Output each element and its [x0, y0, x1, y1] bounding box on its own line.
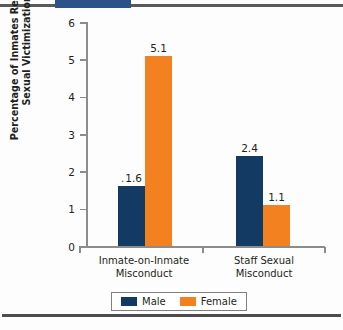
bar-female-inmate-on-inmate[interactable]: 5.1 [145, 56, 172, 246]
y-axis-title-line1: Percentage of Inmates Reporting [9, 0, 20, 140]
bar-male-inmate-on-inmate[interactable]: 1.6 [118, 186, 145, 246]
legend-swatch-male-icon [121, 297, 137, 306]
y-tick-0: 0 [80, 246, 86, 248]
bar-value-male-staff-sexual: 2.4 [241, 142, 258, 154]
y-axis-title-line2: Sexual Victimization [21, 0, 32, 106]
legend-item-female[interactable]: Female [180, 296, 237, 307]
plot-area: 1.6 5.1 2.4 1.1 [86, 22, 318, 246]
y-tick-label-0: 0 [68, 241, 75, 253]
x-category-label-2: Staff Sexual Misconduct [205, 255, 323, 280]
y-tick-label-1: 1 [68, 203, 75, 215]
y-tick-label-2: 2 [68, 166, 75, 178]
bar-value-male-inmate-on-inmate: 1.6 [121, 172, 142, 184]
y-tick-label-3: 3 [68, 129, 75, 141]
bar-female-staff-sexual[interactable]: 1.1 [263, 205, 290, 246]
bar-male-staff-sexual[interactable]: 2.4 [236, 156, 263, 246]
top-divider-rule [0, 4, 343, 7]
x-category-label-1-line1: Inmate-on-Inmate [99, 255, 189, 266]
x-category-label-2-line1: Staff Sexual [234, 255, 294, 266]
legend-item-male[interactable]: Male [121, 296, 166, 307]
chart-figure: Percentage of Inmates Reporting Sexual V… [0, 0, 343, 330]
bar-value-female-staff-sexual: 1.1 [268, 191, 285, 203]
top-banner-fragment [55, 0, 131, 8]
bar-value-female-inmate-on-inmate: 5.1 [150, 42, 167, 54]
y-tick-label-4: 4 [68, 91, 75, 103]
y-axis-title: Percentage of Inmates Reporting Sexual V… [9, 0, 34, 145]
x-category-label-1-line2: Misconduct [116, 268, 173, 279]
x-tick-start [79, 247, 81, 253]
x-category-label-1: Inmate-on-Inmate Misconduct [86, 255, 202, 280]
x-tick-end [324, 247, 326, 253]
x-tick-mid [202, 247, 204, 253]
bottom-divider-rule [2, 314, 341, 317]
legend-swatch-female-icon [180, 297, 196, 306]
chart-legend: Male Female [111, 292, 247, 311]
legend-label-male: Male [142, 296, 166, 307]
legend-label-female: Female [201, 296, 237, 307]
y-tick-label-5: 5 [68, 54, 75, 66]
x-category-label-2-line2: Misconduct [236, 268, 293, 279]
y-tick-label-6: 6 [68, 17, 75, 29]
